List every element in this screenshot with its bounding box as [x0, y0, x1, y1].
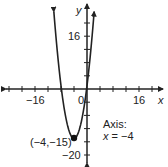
- y-tick-label-neg20: −20: [62, 149, 81, 161]
- vertex-label: (−4,−15): [30, 136, 72, 148]
- origin-label: 0: [78, 94, 84, 106]
- axis-annotation-title: Axis:: [103, 118, 127, 130]
- vertex-point: [71, 135, 77, 141]
- x-tick-label-16: 16: [133, 94, 145, 106]
- axis-annotation-equation: x = −4: [102, 130, 134, 142]
- y-axis-label: y: [75, 4, 83, 16]
- x-tick-label-neg16: −16: [26, 94, 45, 106]
- y-tick-label-16: 16: [68, 30, 80, 42]
- parabola-chart: x y −16 0 16 16 −20 (−4,−15) Axis: x = −…: [0, 0, 168, 167]
- x-axis-label: x: [157, 94, 164, 106]
